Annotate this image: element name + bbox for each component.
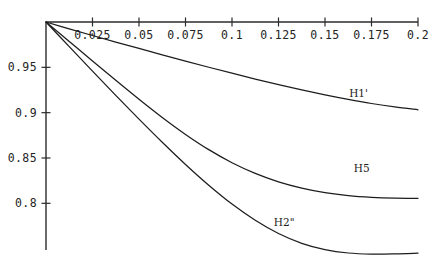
y-tick-label: 0.8	[15, 196, 37, 210]
x-tick-label: 0.2	[407, 28, 429, 42]
line-chart: 0.0250.050.0750.10.1250.150.1750.20.950.…	[0, 0, 434, 274]
x-tick-label: 0.1	[221, 28, 243, 42]
x-tick-label: 0.075	[167, 28, 204, 42]
y-tick-label: 0.9	[15, 106, 37, 120]
x-tick-label: 0.175	[353, 28, 390, 42]
series-label-H2: H2"	[274, 216, 295, 228]
series-label-H5: H5	[354, 162, 370, 174]
x-tick-label: 0.15	[310, 28, 339, 42]
series-label-H1: H1'	[349, 87, 368, 99]
series-curve-H2	[46, 22, 418, 254]
y-tick-label: 0.85	[8, 151, 37, 165]
chart-canvas: 0.0250.050.0750.10.1250.150.1750.20.950.…	[0, 0, 434, 274]
x-tick-label: 0.05	[124, 28, 153, 42]
y-tick-label: 0.95	[8, 60, 37, 74]
x-tick-label: 0.125	[260, 28, 297, 42]
